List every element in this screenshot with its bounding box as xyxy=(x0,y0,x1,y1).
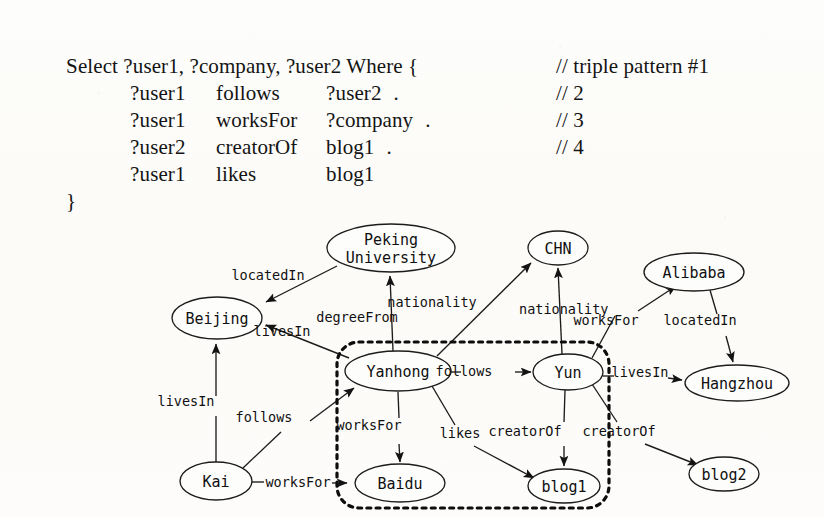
edge-label-worksfor-alibaba: worksFor xyxy=(573,312,638,328)
edge-yun-worksfor-alibaba xyxy=(638,286,676,311)
node-label-peking-line1: Peking xyxy=(364,231,418,249)
node-label-blog2: blog2 xyxy=(701,466,746,484)
node-label-baidu: Baidu xyxy=(377,475,422,493)
node-label-blog1: blog1 xyxy=(541,478,586,496)
graph-node-yun[interactable]: Yun xyxy=(533,354,603,390)
edge-label-locatedin-hangzhou: locatedIn xyxy=(663,312,736,328)
graph-node-beijing[interactable]: Beijing xyxy=(172,297,262,339)
graph-node-peking[interactable]: Peking University xyxy=(327,224,455,272)
query-header-line: Select ?user1, ?company, ?user2 Where { xyxy=(34,26,790,53)
node-label-chn: CHN xyxy=(544,240,571,258)
triple-comment: // 2 xyxy=(556,80,584,107)
graph-node-hangzhou[interactable]: Hangzhou xyxy=(685,365,789,401)
edge-yanhong-worksfor-stub xyxy=(398,392,399,418)
edge-kai-follows-stub xyxy=(243,432,281,468)
edge-label-follows-yanhong-yun: follows xyxy=(436,363,493,379)
edge-yanhong-likes-blog1 xyxy=(474,446,534,478)
node-label-alibaba: Alibaba xyxy=(662,264,725,282)
graph-node-chn[interactable]: CHN xyxy=(528,231,588,265)
edge-yanhong-worksfor-baidu xyxy=(399,444,400,462)
edge-alibaba-locatedin-hangzhou xyxy=(726,336,733,362)
edge-alibaba-locatedin-stub xyxy=(710,290,717,314)
node-label-beijing: Beijing xyxy=(185,310,248,328)
triple-pattern-row: ?user2creatorOfblog1. // 3 xyxy=(34,107,790,134)
edge-yun-creatorof2-stub xyxy=(592,384,617,422)
edge-yun-creatorof-stub xyxy=(564,390,565,422)
edge-label-livesin-yanhong: livesIn xyxy=(254,323,311,339)
edge-yun-creatorof-blog2 xyxy=(645,444,698,465)
edge-label-layer: locatedIn degreeFrom livesIn nationality… xyxy=(158,267,737,490)
edge-label-creatorof-blog2: creatorOf xyxy=(582,423,655,439)
triple-comment: // 3 xyxy=(556,107,584,134)
edge-label-follows-kai: follows xyxy=(236,409,293,425)
edge-label-nationality-yanhong: nationality xyxy=(387,294,476,310)
triple-comment: // 4 xyxy=(556,134,584,161)
triple-pattern-row: ?user1worksFor?company. // 2 xyxy=(34,80,790,107)
triple-pattern-row: ?user1follows?user2. // triple pattern #… xyxy=(34,53,790,80)
edge-label-worksfor-kai: worksFor xyxy=(265,474,330,490)
triple-comment: // triple pattern #1 xyxy=(556,53,709,80)
node-label-kai: Kai xyxy=(202,473,229,491)
edge-label-creatorof-blog1: creatorOf xyxy=(488,423,561,439)
triple-pattern-row: ?user1likesblog1 // 4 xyxy=(34,134,790,161)
scanned-figure-page: Select ?user1, ?company, ?user2 Where { … xyxy=(0,0,824,518)
edge-label-livesin-hangzhou: livesIn xyxy=(612,364,669,380)
edge-label-livesin-kai: livesIn xyxy=(158,393,215,409)
graph-node-kai[interactable]: Kai xyxy=(180,462,252,500)
query-closing-line: } xyxy=(34,161,790,188)
edge-label-likes: likes xyxy=(440,425,481,441)
rdf-graph-canvas: Peking University CHN Alibaba Beijing xyxy=(0,206,824,518)
graph-node-blog2[interactable]: blog2 xyxy=(689,457,759,491)
node-label-hangzhou: Hangzhou xyxy=(701,375,773,393)
sparql-query-block: Select ?user1, ?company, ?user2 Where { … xyxy=(34,26,790,188)
edge-label-worksfor-yanhong: worksFor xyxy=(336,417,401,433)
node-label-yun: Yun xyxy=(554,364,581,382)
graph-node-blog1[interactable]: blog1 xyxy=(528,469,600,503)
edge-label-locatedin-beijing: locatedIn xyxy=(231,267,304,283)
graph-node-alibaba[interactable]: Alibaba xyxy=(644,253,744,291)
node-label-yanhong: Yanhong xyxy=(366,363,429,381)
edge-label-degreefrom: degreeFrom xyxy=(316,309,397,325)
graph-node-baidu[interactable]: Baidu xyxy=(355,464,445,502)
edge-yun-livesin-hangzhou xyxy=(668,378,682,380)
rdf-graph-figure: Peking University CHN Alibaba Beijing xyxy=(0,206,824,518)
node-label-peking-line2: University xyxy=(346,249,436,267)
edge-yanhong-likes-stub xyxy=(432,386,455,425)
